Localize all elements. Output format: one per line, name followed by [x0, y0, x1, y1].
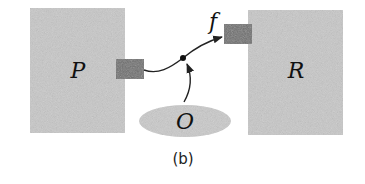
diagram-canvas: P R O f (b)	[0, 0, 365, 184]
edge-junction-to-r	[183, 37, 222, 58]
label-r: R	[287, 58, 305, 83]
label-p: P	[70, 58, 87, 83]
label-o: O	[176, 109, 194, 134]
edge-label-f: f	[207, 9, 221, 34]
caption: (b)	[172, 150, 193, 168]
port-p	[116, 59, 144, 79]
edge-o-to-junction	[184, 64, 190, 102]
edge-p-to-junction	[144, 58, 183, 72]
port-r	[224, 24, 252, 44]
junction-dot	[180, 55, 186, 61]
